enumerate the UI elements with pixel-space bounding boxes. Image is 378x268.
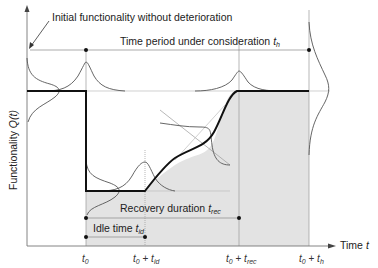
initial-arrow-line	[31, 21, 49, 46]
distribution-trec	[195, 71, 280, 91]
tick-t0-th: t0 + th	[299, 253, 324, 265]
distribution-th-vertical	[309, 22, 329, 155]
period-dot-th	[307, 48, 311, 52]
tick-t0-tid: t0 + tid	[133, 253, 160, 265]
recovery-dot-start	[84, 216, 88, 220]
recovery-duration-label: Recovery duration trec	[120, 202, 221, 215]
y-axis-arrow	[25, 5, 30, 12]
x-axis-arrow	[328, 244, 336, 249]
x-axis-label: Time t	[340, 239, 370, 251]
tick-t0: t0	[82, 253, 89, 265]
idle-dot-start	[84, 235, 88, 239]
recovery-dot-end	[237, 216, 241, 220]
idle-dot-end	[143, 235, 147, 239]
resilience-diagram: Initial functionality without deteriorat…	[0, 0, 378, 268]
initial-label: Initial functionality without deteriorat…	[52, 11, 233, 23]
period-dot-t0	[84, 48, 88, 52]
time-period-label: Time period under consideration th	[120, 35, 280, 48]
tick-t0-trec: t0 + trec	[226, 253, 257, 265]
idle-time-label: Idle time tid	[93, 222, 145, 235]
shaded-area-low	[86, 191, 145, 246]
y-axis-label: Functionality Q(t)	[7, 110, 19, 190]
